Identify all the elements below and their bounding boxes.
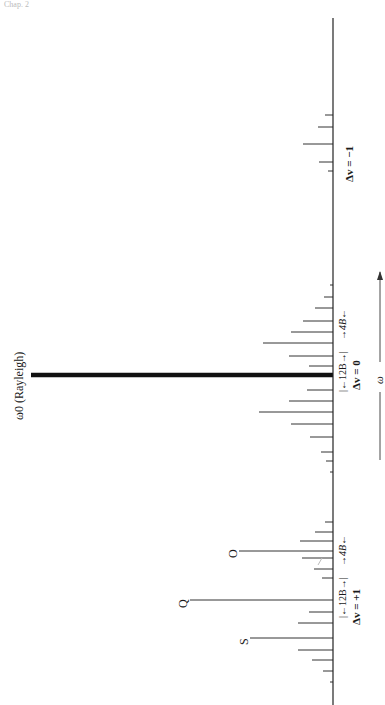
omega-label: ω	[373, 376, 385, 384]
branch-o-label: O	[226, 549, 241, 558]
dv-plus-label: Δv = +1	[350, 589, 362, 625]
spacing-4b-zero: →4B←	[337, 309, 348, 340]
dv-zero-label: Δv = 0	[350, 360, 362, 390]
spacing-4b-plus: →4B←	[337, 535, 348, 566]
faint-mark	[318, 558, 322, 565]
raman-spectrum-diagram	[0, 0, 385, 705]
spacing-12b-plus: |←12B→|	[337, 577, 348, 618]
spectral-lines	[31, 115, 333, 682]
arrow-head-icon	[377, 271, 383, 280]
dv-minus-label: Δv = −1	[343, 146, 355, 182]
spacing-12b-zero: |←12B→|	[337, 351, 348, 392]
rayleigh-label: ω0 (Rayleigh)	[12, 352, 27, 420]
branch-s-label: S	[237, 638, 252, 645]
branch-q-label: Q	[176, 599, 191, 608]
